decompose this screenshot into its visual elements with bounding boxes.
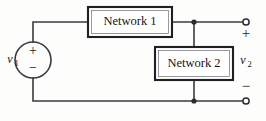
circuit-diagram: + − v 1 Network 1 Network 2 + − v 2 (0, 0, 266, 121)
circuit-canvas: + − v 1 Network 1 Network 2 + − v 2 (0, 0, 266, 121)
network-2-block[interactable]: Network 2 (155, 47, 233, 80)
network-1-label: Network 1 (103, 14, 156, 28)
source-label-text: v (7, 52, 13, 66)
wire-bottom-rail (33, 78, 243, 101)
output-label-subscript: 2 (247, 59, 251, 69)
source-plus-sign: + (29, 43, 37, 58)
wire-source-to-network1 (33, 22, 88, 42)
source-minus-sign: − (29, 60, 37, 75)
network-1-block[interactable]: Network 1 (88, 7, 172, 37)
output-plus-sign: + (242, 25, 250, 41)
output-terminal-negative[interactable] (243, 98, 249, 104)
output-minus-sign: − (242, 78, 250, 94)
network-2-label: Network 2 (167, 56, 220, 70)
junction-dot-top (191, 19, 196, 24)
source-label-v1: v 1 (7, 52, 18, 69)
junction-dot-bottom (191, 98, 196, 103)
output-label-text: v (240, 53, 246, 67)
output-terminal-positive[interactable] (243, 19, 249, 25)
voltage-source-v1: + − (15, 42, 51, 78)
output-label-v2: v 2 (240, 53, 251, 70)
source-label-subscript: 1 (14, 58, 18, 68)
